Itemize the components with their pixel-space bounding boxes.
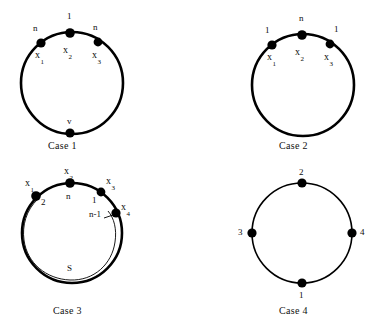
- case-2-node-label-x3: x3: [324, 52, 333, 65]
- diagram-canvas: [0, 0, 376, 330]
- case-1-edge-label-n-left: n: [33, 24, 38, 33]
- case-3-node-x3: [97, 188, 106, 197]
- case-4-node-label-bottom: 1: [299, 291, 304, 300]
- case-2-x2-subscript: 2: [301, 55, 305, 63]
- case-3-caption: Case 3: [53, 305, 82, 316]
- case-1-edge-label-n-right: n: [93, 23, 98, 32]
- case-4-node-label-left: 3: [238, 228, 243, 237]
- case-2-x2-base: x: [295, 46, 300, 57]
- case-3-x4-subscript: 4: [127, 210, 131, 218]
- case-1-node-x3: [94, 38, 103, 47]
- case-3-x1-base: x: [25, 177, 30, 188]
- case-2-caption: Case 2: [279, 140, 308, 151]
- case-2-x1-subscript: 1: [273, 60, 277, 68]
- case-3-node-label-x2: x2: [64, 166, 73, 179]
- case-4-node-label-top: 2: [299, 168, 304, 177]
- case-1-node-x1: [36, 38, 45, 47]
- case-1-x1-subscript: 1: [41, 58, 45, 66]
- case-3-inner-arc-label-s: S: [67, 264, 72, 273]
- case-1-x3-base: x: [92, 49, 97, 60]
- case-2-edge-label-1-right: 1: [334, 25, 339, 34]
- case-2-x1-base: x: [267, 51, 272, 62]
- case-2-x3-base: x: [324, 51, 329, 62]
- case-3-x2-base: x: [64, 165, 69, 176]
- figure-four-cases: n 1 n x1 x2 x3 v Case 1 1 n 1 x1 x2 x3 C…: [0, 0, 376, 330]
- case-3-node-label-x4: x4: [121, 202, 130, 215]
- case-3-edge-label-1: 1: [92, 196, 97, 205]
- case-4-node-bottom: [297, 278, 306, 287]
- case-1-caption: Case 1: [48, 140, 77, 151]
- case-4-circle: [252, 183, 352, 283]
- case-2-node-x1: [267, 40, 276, 49]
- case-1-x3-subscript: 3: [98, 58, 102, 66]
- case-3-x1-subscript: 1: [31, 186, 35, 194]
- case-1-node-label-x3: x3: [92, 50, 101, 63]
- case-1-node-label-v: v: [67, 117, 72, 126]
- case-1-x1-base: x: [35, 49, 40, 60]
- case-4-node-left: [247, 228, 256, 237]
- case-4-node-label-right: 4: [360, 228, 365, 237]
- case-1-node-v: [65, 128, 74, 137]
- case-3-edge-label-n-minus-1: n-1: [89, 210, 101, 219]
- case-1-edge-label-1-top: 1: [67, 12, 72, 21]
- case-1-x2-base: x: [63, 44, 68, 55]
- case-2-x3-subscript: 3: [330, 60, 334, 68]
- case-3-node-label-x1: x1: [25, 178, 34, 191]
- case-3-x2-subscript: 2: [70, 174, 74, 182]
- case-4-node-top: [297, 178, 306, 187]
- case-3-edge-label-n: n: [66, 192, 71, 201]
- case-3-node-x4: [111, 208, 120, 217]
- case-3-x4-base: x: [121, 201, 126, 212]
- case-4-caption: Case 4: [279, 305, 308, 316]
- case-3-x3-subscript: 3: [112, 184, 116, 192]
- case-1-circle: [21, 32, 123, 134]
- case-2-node-label-x2: x2: [295, 47, 304, 60]
- case-1-node-label-x2: x2: [63, 45, 72, 58]
- case-1-group: [21, 28, 123, 137]
- case-1-node-label-x1: x1: [35, 50, 44, 63]
- case-2-node-x3: [326, 40, 335, 49]
- case-2-node-x2: [297, 30, 307, 40]
- case-1-node-x2: [65, 28, 75, 38]
- case-2-edge-label-1-left: 1: [265, 26, 270, 35]
- case-2-node-label-x1: x1: [267, 52, 276, 65]
- case-1-x2-subscript: 2: [69, 53, 73, 61]
- case-2-edge-label-n-top: n: [299, 14, 304, 23]
- case-4-node-right: [347, 228, 356, 237]
- case-4-group: [247, 178, 356, 287]
- case-3-edge-label-2: 2: [41, 198, 46, 207]
- case-3-node-label-x3: x3: [106, 176, 115, 189]
- case-3-x3-base: x: [106, 175, 111, 186]
